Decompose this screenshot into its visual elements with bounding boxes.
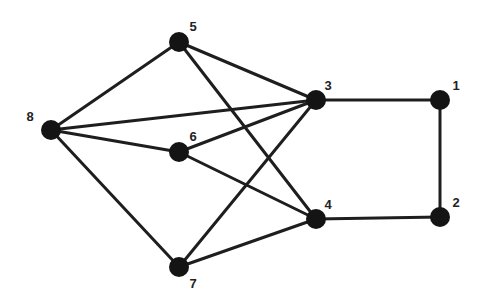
node-label-1: 1 bbox=[452, 78, 459, 93]
node-label-3: 3 bbox=[324, 78, 331, 93]
node-label-6: 6 bbox=[189, 129, 196, 144]
edge-5-4 bbox=[179, 42, 316, 219]
edges-layer bbox=[51, 42, 440, 267]
node-8 bbox=[41, 120, 61, 140]
node-3 bbox=[306, 90, 326, 110]
node-2 bbox=[430, 207, 450, 227]
graph-diagram: 12345678 bbox=[0, 0, 491, 301]
node-6 bbox=[169, 142, 189, 162]
node-label-8: 8 bbox=[26, 109, 33, 124]
labels-layer: 12345678 bbox=[26, 19, 459, 291]
node-label-4: 4 bbox=[324, 197, 332, 212]
node-label-2: 2 bbox=[452, 195, 459, 210]
node-5 bbox=[169, 32, 189, 52]
node-4 bbox=[306, 209, 326, 229]
edge-2-4 bbox=[316, 217, 440, 219]
node-label-7: 7 bbox=[189, 276, 196, 291]
edge-8-7 bbox=[51, 130, 179, 267]
node-1 bbox=[430, 90, 450, 110]
node-7 bbox=[169, 257, 189, 277]
node-label-5: 5 bbox=[189, 19, 196, 34]
